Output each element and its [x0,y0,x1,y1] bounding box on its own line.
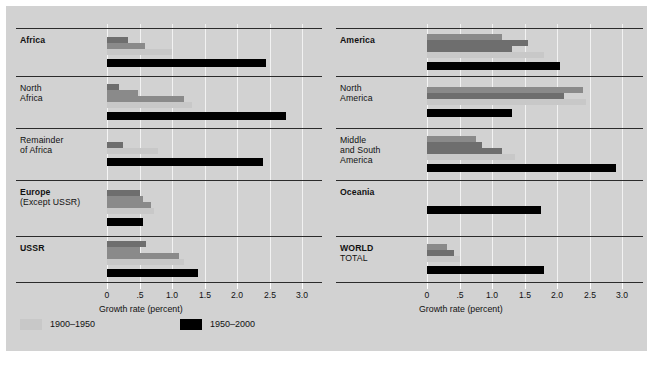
axis-title: Growth rate (percent) [419,304,503,314]
gridline-2.5 [270,24,271,282]
legend-swatch [20,319,42,330]
row-label-line: and South [340,145,381,155]
row-label-remainder-of-africa: Remainderof Africa [20,135,63,155]
bar-segment [427,154,515,160]
axis-tick-label: .5 [456,290,463,300]
bar-1950-2000 [107,59,266,67]
axis-title: Growth rate (percent) [99,304,183,314]
axis-tick [492,282,493,289]
row-label-ussr: USSR [20,243,45,253]
axis-tick-label: 1.0 [166,290,178,300]
axis-tick [172,282,173,289]
row-label-line: North [340,83,373,93]
bar-segment [427,99,586,105]
row-separator [16,28,322,29]
row-label-line: America [340,35,375,45]
row-separator [16,282,322,283]
axis-tick [302,282,303,289]
row-label-line: (Except USSR) [20,197,80,207]
axis-tick-label: 1.5 [199,290,211,300]
row-label-line: America [340,93,373,103]
axis-tick-label: .5 [136,290,143,300]
row-separator [336,128,643,129]
row-label-north-africa: NorthAfrica [20,83,43,103]
legend-swatch [180,319,202,330]
row-label-line: Africa [20,93,43,103]
axis-tick [525,282,526,289]
axis-tick-label: 1.5 [519,290,531,300]
bar-segment [427,256,460,262]
axis-tick-label: 2.5 [584,290,596,300]
gridline-2.5 [590,24,591,282]
axis-tick [590,282,591,289]
bar-1950-2000 [427,266,544,274]
axis-tick-label: 2.5 [264,290,276,300]
axis-tick-label: 0 [105,290,110,300]
row-label-world-total: WORLDTOTAL [340,243,373,263]
row-separator [336,180,643,181]
legend-label: 1900–1950 [50,318,95,330]
bar-1950-2000 [427,164,616,172]
axis-tick [460,282,461,289]
left-axis: 0.51.01.52.02.53.0Growth rate (percent) [6,282,326,316]
bar-segment [107,49,172,55]
row-label-line: North [20,83,43,93]
row-label-line: Europe [20,187,80,197]
axis-tick-label: 2.0 [231,290,243,300]
axis-tick-label: 1.0 [486,290,498,300]
axis-tick [107,282,108,289]
axis-tick-label: 3.0 [296,290,308,300]
bar-segment [107,148,158,154]
row-label-line: USSR [20,243,45,253]
row-label-line: TOTAL [340,253,373,263]
axis-tick [205,282,206,289]
row-separator [336,76,643,77]
row-label-line: Africa [20,35,45,45]
row-label-africa: Africa [20,35,45,45]
row-label-line: America [340,155,381,165]
chart-plate: 0.51.01.52.02.53.0Growth rate (percent) … [6,6,647,351]
axis-tick [427,282,428,289]
screenshot-root: 0.51.01.52.02.53.0Growth rate (percent) … [0,0,653,371]
bar-1950-2000 [427,206,541,214]
axis-tick [237,282,238,289]
row-separator [16,128,322,129]
bar-segment [427,52,544,58]
axis-tick-label: 3.0 [616,290,628,300]
legend-label: 1950–2000 [210,318,255,330]
bar-1950-2000 [107,218,143,226]
left-panel: 0.51.01.52.02.53.0Growth rate (percent) … [6,6,326,351]
row-separator [16,180,322,181]
row-label-europe-except-ussr: Europe(Except USSR) [20,187,80,207]
bar-segment [107,259,184,265]
gridline-3.0 [302,24,303,282]
axis-tick [557,282,558,289]
axis-tick-label: 2.0 [551,290,563,300]
bar-segment [107,208,154,214]
axis-tick [140,282,141,289]
row-separator [336,236,643,237]
axis-tick [622,282,623,289]
bar-segment [107,102,192,108]
row-label-middle-and-south-america: Middleand SouthAmerica [340,135,381,166]
axis-tick-label: 0 [425,290,430,300]
bar-1950-2000 [427,109,512,117]
row-label-line: Middle [340,135,381,145]
row-separator [16,236,322,237]
bar-1950-2000 [107,112,286,120]
row-separator [336,28,643,29]
row-separator [336,282,643,283]
row-label-oceania: Oceania [340,187,375,197]
row-label-line: Remainder [20,135,63,145]
row-label-line: WORLD [340,243,373,253]
row-label-north-america: NorthAmerica [340,83,373,103]
axis-tick [270,282,271,289]
row-label-line: Oceania [340,187,375,197]
row-separator [16,76,322,77]
right-panel: 0.51.01.52.02.53.0Growth rate (percent) … [326,6,647,351]
gridline-3.0 [622,24,623,282]
row-label-line: of Africa [20,145,63,155]
bar-1950-2000 [107,269,198,277]
bar-1950-2000 [107,158,263,166]
right-axis: 0.51.01.52.02.53.0Growth rate (percent) [326,282,647,316]
